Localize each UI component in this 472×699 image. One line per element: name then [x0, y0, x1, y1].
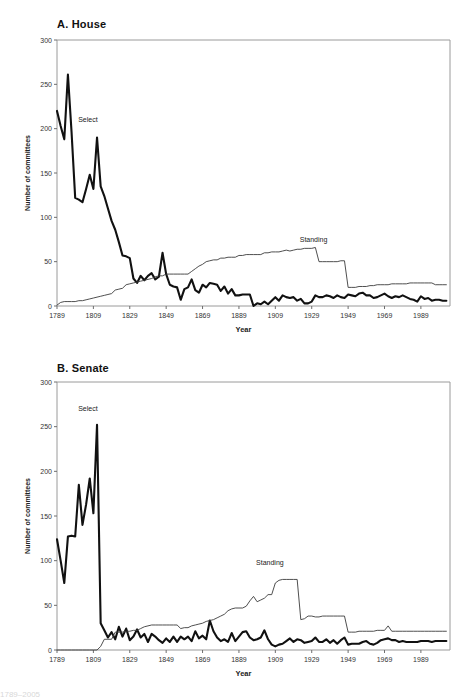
- y-tick-label-50: 50: [44, 258, 52, 265]
- y-tick-label-0: 0: [48, 647, 52, 654]
- y-tick-label-50: 50: [44, 602, 52, 609]
- standing-label: Standing: [300, 236, 328, 244]
- x-tick-label-1929: 1929: [304, 312, 320, 319]
- y-tick-label-150: 150: [40, 513, 52, 520]
- x-tick-label-1949: 1949: [340, 656, 356, 663]
- x-tick-label-1869: 1869: [195, 656, 211, 663]
- y-tick-label-150: 150: [40, 170, 52, 177]
- y-tick-label-200: 200: [40, 125, 52, 132]
- plot-frame: [57, 382, 450, 650]
- x-tick-label-1989: 1989: [413, 312, 429, 319]
- x-tick-label-1829: 1829: [122, 312, 138, 319]
- y-tick-label-200: 200: [40, 468, 52, 475]
- chart-senate: 0501001502002503001789180918291849186918…: [0, 350, 472, 699]
- x-tick-label-1889: 1889: [231, 312, 247, 319]
- y-tick-label-100: 100: [40, 214, 52, 221]
- x-tick-label-1869: 1869: [195, 312, 211, 319]
- standing-label: Standing: [256, 559, 284, 567]
- y-tick-label-100: 100: [40, 557, 52, 564]
- y-tick-label-300: 300: [40, 379, 52, 386]
- x-tick-label-1809: 1809: [86, 656, 102, 663]
- x-tick-label-1909: 1909: [268, 656, 284, 663]
- x-tick-label-1849: 1849: [158, 656, 174, 663]
- x-tick-label-1929: 1929: [304, 656, 320, 663]
- chart-house: 0501001502002503001789180918291849186918…: [0, 0, 472, 350]
- x-tick-label-1789: 1789: [49, 312, 65, 319]
- x-axis-title: Year: [236, 669, 252, 678]
- select-label: Select: [78, 116, 98, 123]
- y-axis-title: Number of committees: [24, 135, 31, 211]
- x-tick-label-1789: 1789: [49, 656, 65, 663]
- y-tick-label-0: 0: [48, 303, 52, 310]
- x-tick-label-1909: 1909: [268, 312, 284, 319]
- y-tick-label-250: 250: [40, 423, 52, 430]
- x-tick-label-1829: 1829: [122, 656, 138, 663]
- x-tick-label-1969: 1969: [377, 312, 393, 319]
- y-tick-label-250: 250: [40, 81, 52, 88]
- y-axis-title: Number of committees: [24, 478, 31, 554]
- x-axis-title: Year: [236, 325, 252, 334]
- caption-sliver: 1789–2005: [0, 690, 472, 699]
- plot-frame: [57, 40, 450, 306]
- x-tick-label-1889: 1889: [231, 656, 247, 663]
- panel-house: A. House 0501001502002503001789180918291…: [0, 0, 472, 350]
- y-tick-label-300: 300: [40, 37, 52, 44]
- series-line-select: [57, 425, 446, 647]
- select-label: Select: [78, 405, 98, 412]
- x-tick-label-1949: 1949: [340, 312, 356, 319]
- x-tick-label-1849: 1849: [158, 312, 174, 319]
- x-tick-label-1989: 1989: [413, 656, 429, 663]
- series-line-select: [57, 75, 446, 306]
- x-tick-label-1969: 1969: [377, 656, 393, 663]
- x-tick-label-1809: 1809: [86, 312, 102, 319]
- panel-senate: B. Senate 050100150200250300178918091829…: [0, 350, 472, 699]
